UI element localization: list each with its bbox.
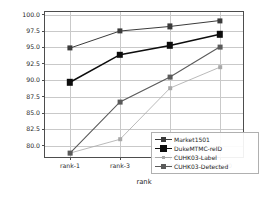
data-point bbox=[68, 151, 73, 156]
x-tick-label: rank-1 bbox=[60, 161, 80, 170]
legend-item-2[interactable]: CUHK03-Label bbox=[155, 153, 255, 162]
y-tick-label: 90.0 bbox=[26, 75, 40, 84]
data-point bbox=[167, 24, 172, 29]
legend-marker-icon bbox=[160, 145, 166, 151]
x-tick-label: rank-3 bbox=[110, 161, 130, 170]
legend-swatch-icon bbox=[155, 153, 172, 162]
chart-legend[interactable]: Market1501DukeMTMC-reIDCUHK03-LabelCUHK0… bbox=[151, 132, 259, 174]
legend-item-3[interactable]: CUHK03-Detected bbox=[155, 162, 255, 171]
y-tick-label: 97.5 bbox=[26, 26, 40, 35]
legend-label: CUHK03-Detected bbox=[174, 162, 228, 171]
data-point bbox=[217, 18, 222, 23]
x-tick-mark bbox=[120, 157, 121, 160]
y-tick-mark bbox=[42, 14, 45, 15]
x-axis-label: rank bbox=[44, 178, 244, 186]
data-point bbox=[67, 45, 72, 50]
data-point bbox=[168, 75, 173, 80]
data-point bbox=[117, 28, 122, 33]
legend-label: CUHK03-Label bbox=[174, 153, 217, 162]
y-tick-mark bbox=[42, 31, 45, 32]
cmc-line-chart-figure: 80.082.585.087.590.092.595.097.5100.0 ra… bbox=[0, 0, 268, 203]
data-point bbox=[167, 42, 173, 48]
y-tick-label: 95.0 bbox=[26, 42, 40, 51]
y-tick-label: 87.5 bbox=[26, 92, 40, 101]
data-point bbox=[217, 31, 223, 37]
legend-marker-icon bbox=[161, 164, 166, 169]
data-point bbox=[218, 44, 223, 49]
data-point bbox=[117, 51, 123, 57]
y-tick-label: 85.0 bbox=[26, 108, 40, 117]
y-tick-label: 100.0 bbox=[22, 10, 40, 19]
y-tick-mark bbox=[42, 47, 45, 48]
legend-label: Market1501 bbox=[174, 135, 210, 144]
y-tick-mark bbox=[42, 145, 45, 146]
legend-label: DukeMTMC-reID bbox=[174, 144, 222, 153]
y-tick-mark bbox=[42, 129, 45, 130]
legend-item-1[interactable]: DukeMTMC-reID bbox=[155, 144, 255, 153]
data-point bbox=[218, 65, 222, 69]
x-tick-mark bbox=[70, 157, 71, 160]
legend-swatch-icon bbox=[155, 162, 172, 171]
y-tick-mark bbox=[42, 80, 45, 81]
legend-swatch-icon bbox=[155, 144, 172, 153]
legend-item-0[interactable]: Market1501 bbox=[155, 135, 255, 144]
data-point bbox=[67, 79, 73, 85]
y-tick-mark bbox=[42, 96, 45, 97]
y-tick-label: 82.5 bbox=[26, 124, 40, 133]
y-tick-label: 92.5 bbox=[26, 59, 40, 68]
legend-swatch-icon bbox=[155, 135, 172, 144]
data-point bbox=[118, 100, 123, 105]
y-tick-mark bbox=[42, 113, 45, 114]
data-point bbox=[168, 86, 172, 90]
y-tick-mark bbox=[42, 63, 45, 64]
legend-marker-icon bbox=[161, 137, 166, 142]
y-tick-label: 80.0 bbox=[26, 141, 40, 150]
legend-marker-icon bbox=[162, 156, 166, 160]
data-point bbox=[118, 138, 122, 142]
